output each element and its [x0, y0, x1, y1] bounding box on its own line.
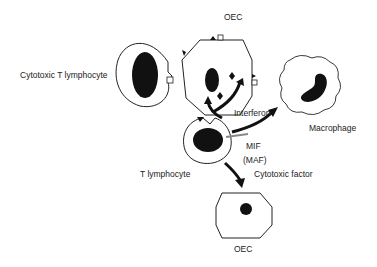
t-lymphocyte-label: T lymphocyte [140, 169, 190, 179]
t-lymphocyte-cell [184, 117, 232, 164]
interferon-label: Interferon [234, 108, 270, 118]
cytotoxic-t-lymphocyte-label: Cytotoxic T lymphocyte [20, 70, 108, 80]
mif-label: MIF [246, 141, 261, 151]
oec-cell-top [182, 35, 257, 118]
arrow-to-cytotoxic-factor [225, 163, 240, 180]
macrophage-label: Macrophage [309, 123, 356, 133]
diagram-canvas [0, 0, 377, 267]
macrophage-cell [279, 55, 340, 114]
nucleus-icon [132, 52, 158, 98]
oec-top-label: OEC [224, 12, 242, 22]
oec-cell-bottom [216, 193, 272, 238]
oec-bottom-label: OEC [234, 244, 252, 254]
cytotoxic-factor-label: Cytotoxic factor [254, 169, 313, 179]
maf-label: (MAF) [243, 155, 267, 165]
cytotoxic-t-lymphocyte-cell [116, 43, 173, 106]
